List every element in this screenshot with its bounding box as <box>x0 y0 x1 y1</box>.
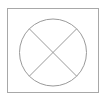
icon-canvas <box>0 0 107 101</box>
square-frame <box>8 9 99 93</box>
circle-with-x-figure <box>0 0 107 101</box>
